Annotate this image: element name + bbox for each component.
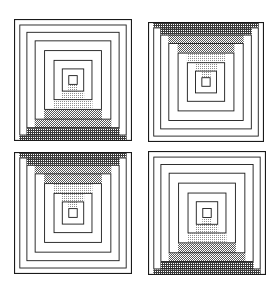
panel-bottom-left-shade-band-2 — [26, 157, 119, 164]
panel-bottom-left-shade-band-7 — [68, 201, 77, 208]
figure-root — [0, 0, 274, 289]
panel-bottom-right-shade-band-3 — [169, 253, 246, 262]
panel-top-right-shade-band-4 — [178, 43, 235, 53]
panel-bottom-left — [14, 152, 132, 274]
panel-bottom-left-shade-band-5 — [54, 183, 93, 193]
panel-bottom-left-shade-band-4 — [44, 173, 102, 183]
panel-top-left-shade-band-7 — [68, 85, 77, 92]
panel-bottom-left-ring-7 — [69, 209, 77, 218]
panel-bottom-right-ring-7 — [203, 209, 211, 218]
panel-bottom-left-drawing — [14, 152, 132, 274]
panel-bottom-right-shade-band-6 — [196, 225, 218, 234]
panel-top-left — [14, 19, 132, 141]
panel-top-left-shade-band-6 — [62, 92, 84, 101]
panel-top-right-shade-band-3 — [168, 35, 243, 43]
panel-top-left-shade-band-2 — [26, 128, 119, 135]
panel-bottom-right-shade-band-7 — [202, 218, 211, 225]
panel-top-right-shade-band-2 — [160, 27, 252, 34]
panel-top-right-shade-band-6 — [195, 62, 217, 70]
panel-bottom-left-shade-band-3 — [35, 165, 112, 174]
panel-top-right-drawing — [148, 22, 264, 142]
panel-top-left-drawing — [14, 19, 132, 141]
panel-bottom-right-shade-band-5 — [188, 233, 227, 243]
panel-top-left-shade-band-3 — [35, 120, 112, 129]
panel-top-right-shade-band-5 — [187, 53, 225, 63]
panel-top-left-ring-7 — [69, 76, 77, 85]
panel-bottom-right — [148, 151, 266, 275]
panel-bottom-right-drawing — [148, 151, 266, 275]
panel-grid — [0, 0, 274, 289]
panel-top-left-shade-band-4 — [44, 110, 102, 120]
panel-bottom-right-shade-band-4 — [178, 243, 236, 253]
panel-bottom-left-shade-band-6 — [62, 193, 84, 202]
panel-top-right-shade-band-7 — [201, 71, 210, 78]
panel-top-right — [148, 22, 264, 142]
panel-bottom-right-shade-band-2 — [160, 262, 253, 269]
panel-top-right-ring-7 — [202, 78, 210, 87]
panel-top-left-shade-band-5 — [54, 100, 93, 110]
